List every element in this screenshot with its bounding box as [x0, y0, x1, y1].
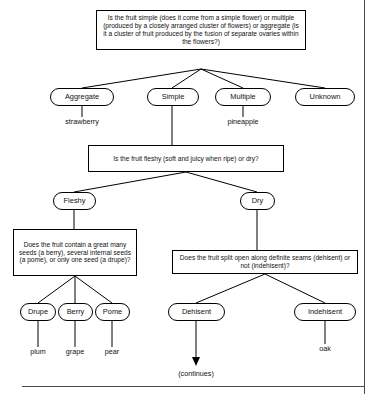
- label-continues: (continues): [166, 369, 226, 378]
- node-unknown[interactable]: Unknown: [295, 88, 355, 106]
- question-text: Does the fruit contain a great many seed…: [18, 241, 132, 264]
- node-label: Simple: [162, 93, 185, 102]
- node-label: Unknown: [310, 93, 341, 102]
- example-pear: pear: [88, 347, 136, 356]
- example-oak: oak: [301, 344, 349, 353]
- question-box-dehisent: Does the fruit split open along definite…: [172, 250, 358, 274]
- question-text: Is the fruit fleshy (soft and juicy when…: [113, 155, 259, 163]
- node-label: Drupe: [28, 308, 48, 317]
- node-fleshy[interactable]: Fleshy: [53, 192, 96, 210]
- node-simple[interactable]: Simple: [147, 88, 199, 106]
- node-multiple[interactable]: Multiple: [215, 88, 271, 106]
- node-dehisent[interactable]: Dehisent: [168, 303, 225, 321]
- node-label: Dry: [252, 197, 264, 206]
- question-box-simple-multiple-aggregate: Is the fruit simple (does it come from a…: [96, 10, 306, 50]
- node-label: Berry: [67, 308, 85, 317]
- node-aggregate[interactable]: Aggregate: [50, 88, 114, 106]
- node-label: Fleshy: [64, 197, 86, 206]
- example-pineapple: pineapple: [213, 117, 273, 126]
- example-strawberry: strawberry: [52, 117, 112, 126]
- frame-right-border: [364, 0, 365, 394]
- question-box-seed-count: Does the fruit contain a great many seed…: [13, 229, 137, 276]
- question-text: Does the fruit split open along definite…: [177, 254, 353, 270]
- node-label: Pome: [103, 308, 122, 317]
- node-label: Indehisent: [308, 308, 342, 317]
- question-box-fleshy-or-dry: Is the fruit fleshy (soft and juicy when…: [88, 145, 284, 172]
- node-label: Aggregate: [65, 93, 99, 102]
- node-indehisent[interactable]: Indehisent: [294, 303, 356, 321]
- flowchart-canvas: Is the fruit simple (does it come from a…: [0, 0, 372, 394]
- node-drupe[interactable]: Drupe: [20, 303, 56, 321]
- node-pome[interactable]: Pome: [95, 303, 130, 321]
- node-dry[interactable]: Dry: [240, 192, 275, 210]
- node-label: Dehisent: [182, 308, 211, 317]
- node-berry[interactable]: Berry: [58, 303, 93, 321]
- frame-bottom-border: [22, 386, 365, 387]
- question-text: Is the fruit simple (does it come from a…: [101, 14, 301, 45]
- node-label: Multiple: [230, 93, 255, 102]
